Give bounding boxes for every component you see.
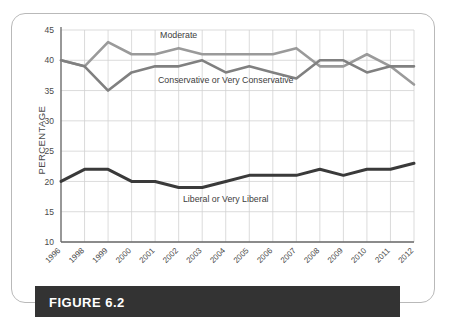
series-line [61, 163, 414, 187]
y-tick-label: 20 [45, 177, 55, 187]
x-tick-label: 2005 [232, 246, 251, 265]
x-tick-label: 2010 [349, 246, 368, 265]
chart-axes [61, 27, 414, 242]
x-tick-label: 2000 [114, 246, 133, 265]
series-annotation-label: Liberal or Very Liberal [183, 194, 269, 204]
x-axis-tick-labels: 1996199819992000200120022003200420052006… [43, 246, 415, 265]
x-tick-label: 1999 [91, 246, 110, 265]
y-tick-label: 45 [45, 25, 55, 35]
chart-series-lines [61, 42, 414, 187]
x-tick-label: 2003 [185, 246, 204, 265]
x-tick-label: 2002 [161, 246, 180, 265]
series-annotation-label: Conservative or Very Conservative [158, 75, 294, 85]
figure-caption-text: FIGURE 6.2 [49, 295, 125, 310]
x-tick-label: 2007 [279, 246, 298, 265]
x-tick-label: 2012 [396, 246, 415, 265]
y-tick-label: 15 [45, 207, 55, 217]
x-tick-label: 2001 [138, 246, 157, 265]
series-annotation-label: Moderate [160, 30, 197, 40]
x-tick-label: 2008 [302, 246, 321, 265]
x-tick-label: 2006 [255, 246, 274, 265]
y-tick-label: 10 [45, 237, 55, 247]
y-axis-title: PERCENTAGE [36, 106, 47, 175]
x-tick-label: 1998 [67, 246, 86, 265]
chart-figure: 1015202530354045 19961998199920002001200… [0, 0, 458, 317]
figure-caption-bar: FIGURE 6.2 [35, 286, 400, 317]
x-tick-label: 2009 [326, 246, 345, 265]
y-tick-label: 35 [45, 86, 55, 96]
x-tick-label: 2004 [208, 246, 227, 265]
chart-gridlines [61, 30, 414, 242]
x-tick-label: 2011 [373, 246, 392, 265]
y-tick-label: 40 [45, 55, 55, 65]
x-tick-label: 1996 [43, 246, 62, 265]
